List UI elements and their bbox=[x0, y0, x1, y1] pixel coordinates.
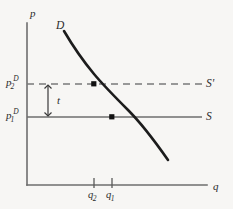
quantity-label-q1: q1 bbox=[106, 190, 115, 201]
demand-curve bbox=[64, 31, 168, 160]
chart-canvas bbox=[0, 0, 233, 209]
supply-shifted-label: S' bbox=[206, 78, 214, 90]
quantity-label-q1-sub: 1 bbox=[111, 194, 115, 203]
price-label-p1-sup: D bbox=[13, 107, 18, 116]
quantity-label-q2-sub: 2 bbox=[93, 194, 97, 203]
price-label-p2-sup: D bbox=[13, 74, 18, 83]
y-axis-label: p bbox=[30, 8, 36, 19]
price-label-p2: p2D bbox=[6, 77, 21, 88]
x-axis-label: q bbox=[213, 181, 219, 192]
marker-equilibrium-after-tax bbox=[91, 81, 96, 86]
tax-incidence-chart: p q D S' S p2D p1D q2 q1 t bbox=[0, 0, 233, 209]
marker-equilibrium-before-tax bbox=[109, 114, 114, 119]
price-label-p1: p1D bbox=[6, 110, 21, 121]
tax-label: t bbox=[57, 95, 60, 106]
quantity-label-q2: q2 bbox=[88, 190, 97, 201]
demand-curve-label: D bbox=[56, 20, 64, 32]
supply-label: S bbox=[206, 111, 212, 123]
